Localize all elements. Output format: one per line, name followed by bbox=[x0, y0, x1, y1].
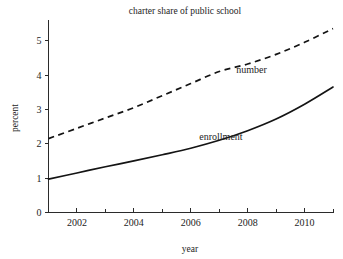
series-line-enrollment bbox=[49, 87, 334, 179]
series-label-number: number bbox=[236, 64, 267, 75]
line-chart: charter share of public school 012345 20… bbox=[0, 0, 343, 259]
x-tick-group: 20022004200620082010 bbox=[49, 208, 334, 228]
x-tick-label: 2004 bbox=[124, 217, 144, 228]
series-line-number bbox=[49, 29, 334, 139]
x-tick-label: 2010 bbox=[295, 217, 315, 228]
series-group bbox=[49, 29, 334, 180]
chart-title: charter share of public school bbox=[129, 6, 242, 16]
chart-figure: charter share of public school 012345 20… bbox=[0, 0, 343, 259]
y-tick-label: 4 bbox=[37, 70, 42, 81]
x-tick-label: 2002 bbox=[67, 217, 87, 228]
x-tick-label: 2008 bbox=[238, 217, 258, 228]
y-tick-label: 2 bbox=[37, 138, 42, 149]
series-label-enrollment: enrollment bbox=[199, 131, 243, 142]
x-tick-label: 2006 bbox=[181, 217, 201, 228]
y-axis-label: percent bbox=[10, 104, 20, 132]
y-tick-label: 3 bbox=[37, 104, 42, 115]
y-tick-label: 0 bbox=[37, 207, 42, 218]
y-tick-label: 1 bbox=[37, 173, 42, 184]
y-tick-label: 5 bbox=[37, 35, 42, 46]
x-axis-label: year bbox=[182, 244, 199, 254]
chart-title-group: charter share of public school bbox=[129, 6, 242, 16]
axes-group bbox=[49, 20, 334, 213]
y-tick-group: 012345 bbox=[37, 35, 49, 218]
